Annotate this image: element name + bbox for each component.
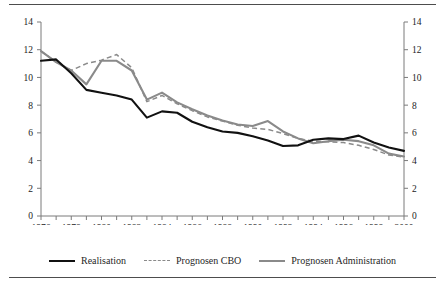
x-tick-label: 1988 — [213, 223, 232, 225]
x-tick-label: 1990 — [243, 223, 262, 225]
left-axis: 02468101214 — [24, 17, 42, 221]
chart-legend: Realisation Prognosen CBO Prognosen Admi… — [0, 250, 445, 270]
legend-swatch-solid-black-line — [49, 255, 75, 265]
y-tick-label-left: 8 — [28, 101, 33, 111]
legend-label-realisation: Realisation — [81, 255, 126, 266]
y-tick-label-left: 0 — [28, 211, 33, 221]
y-tick-label-right: 12 — [412, 45, 422, 55]
series-group — [41, 51, 404, 157]
legend-item-prognosen-cbo[interactable]: Prognosen CBO — [144, 255, 241, 266]
chart-figure: 02468101214 02468101214 1976197819801982… — [0, 0, 445, 290]
legend-swatch-dashed-gray-line — [144, 255, 170, 265]
right-axis: 02468101214 — [404, 17, 422, 221]
legend-label-prognosen-administration: Prognosen Administration — [291, 255, 396, 266]
x-axis — [41, 216, 404, 220]
y-tick-label-right: 2 — [412, 184, 417, 194]
x-tick-label: 1996 — [334, 223, 353, 225]
x-tick-label: 1984 — [153, 223, 172, 225]
x-tick-label: 1994 — [304, 223, 323, 225]
x-tick-label: 2000 — [395, 223, 414, 225]
x-tick-label: 1986 — [183, 223, 202, 225]
x-tick-label: 1992 — [274, 223, 293, 225]
bottom-divider-rule — [9, 277, 436, 278]
line-chart-svg: 02468101214 02468101214 1976197819801982… — [0, 10, 445, 225]
y-tick-label-right: 6 — [412, 128, 417, 138]
y-tick-label-left: 2 — [28, 184, 33, 194]
y-tick-label-left: 4 — [28, 156, 33, 166]
x-tick-label: 1978 — [62, 223, 81, 225]
series-line-realisation — [41, 59, 404, 150]
y-tick-label-right: 10 — [412, 73, 422, 83]
x-tick-label: 1980 — [92, 223, 111, 225]
y-tick-label-left: 14 — [24, 17, 34, 27]
plot-area: 02468101214 02468101214 1976197819801982… — [0, 10, 445, 225]
y-tick-label-right: 8 — [412, 101, 417, 111]
legend-item-prognosen-administration[interactable]: Prognosen Administration — [259, 255, 396, 266]
y-tick-label-right: 4 — [412, 156, 417, 166]
legend-item-realisation[interactable]: Realisation — [49, 255, 126, 266]
x-tick-label: 1976 — [32, 223, 51, 225]
y-tick-label-right: 0 — [412, 211, 417, 221]
x-tick-labels: 1976197819801982198419861988199019921994… — [32, 223, 414, 225]
series-line-prognosen-administration — [41, 51, 404, 156]
y-tick-label-right: 14 — [412, 17, 422, 27]
legend-label-prognosen-cbo: Prognosen CBO — [176, 255, 241, 266]
x-tick-label: 1982 — [122, 223, 141, 225]
y-tick-label-left: 6 — [28, 128, 33, 138]
top-divider-rule — [9, 4, 436, 5]
legend-swatch-solid-gray-line — [259, 255, 285, 265]
y-tick-label-left: 12 — [24, 45, 34, 55]
x-tick-label: 1998 — [364, 223, 383, 225]
y-tick-label-left: 10 — [24, 73, 34, 83]
